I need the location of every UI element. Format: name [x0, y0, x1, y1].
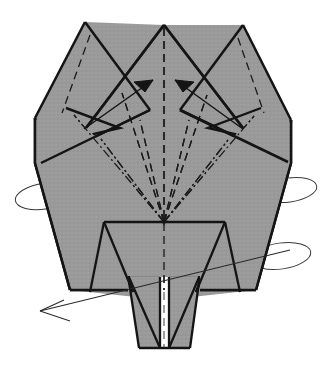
- origami-diagram-root: [0, 0, 329, 376]
- origami-diagram-canvas: [0, 0, 329, 376]
- rotate-arrow-bottom-left-head: [40, 300, 70, 321]
